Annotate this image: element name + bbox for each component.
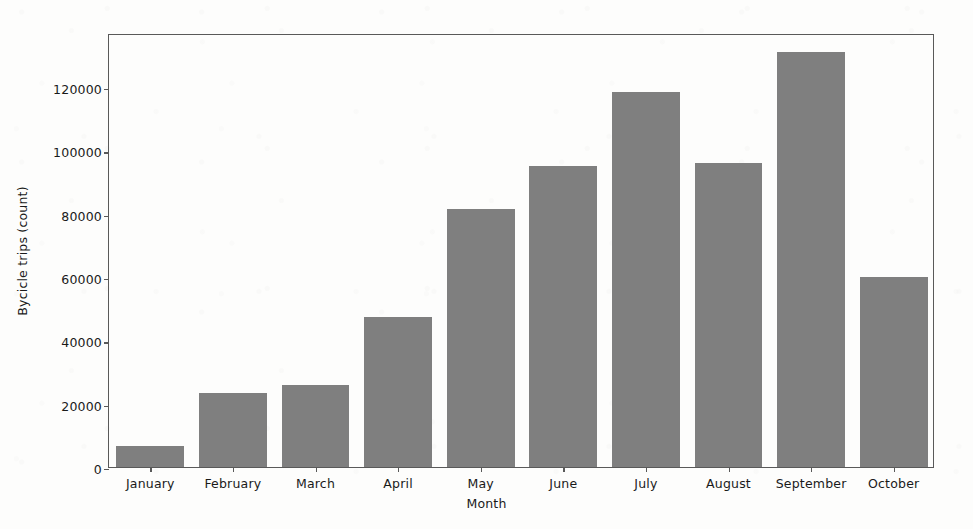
bar	[529, 166, 597, 467]
y-tick-label: 120000	[53, 81, 102, 96]
x-tick-label: February	[204, 476, 261, 491]
x-tick-label: August	[706, 476, 751, 491]
y-tick-label: 20000	[61, 398, 102, 413]
y-tick-mark	[104, 216, 109, 217]
x-tick-mark	[233, 467, 234, 472]
y-tick-mark	[104, 279, 109, 280]
x-tick-mark	[894, 467, 895, 472]
bar	[447, 209, 515, 467]
y-tick-mark	[104, 406, 109, 407]
bar	[695, 163, 763, 467]
x-tick-mark	[729, 467, 730, 472]
bar	[860, 277, 928, 467]
x-tick-label: January	[126, 476, 175, 491]
bar	[777, 52, 845, 467]
y-axis-title: Bycicle trips (count)	[15, 186, 30, 315]
bar	[612, 92, 680, 467]
y-tick-mark	[104, 89, 109, 90]
y-tick-mark	[104, 469, 109, 470]
y-tick-label: 0	[94, 462, 102, 477]
x-tick-mark	[481, 467, 482, 472]
bar-chart-figure: 020000400006000080000100000120000 Januar…	[0, 0, 973, 529]
x-tick-label: May	[467, 476, 493, 491]
plot-area: 020000400006000080000100000120000 Januar…	[108, 34, 934, 468]
y-tick-label: 40000	[61, 335, 102, 350]
x-tick-mark	[316, 467, 317, 472]
bar	[199, 393, 267, 467]
x-tick-mark	[150, 467, 151, 472]
y-tick-mark	[104, 342, 109, 343]
x-tick-mark	[563, 467, 564, 472]
x-tick-label: October	[868, 476, 919, 491]
x-tick-mark	[646, 467, 647, 472]
bar	[282, 385, 350, 467]
x-tick-label: September	[776, 476, 847, 491]
x-tick-label: July	[634, 476, 657, 491]
x-tick-label: March	[296, 476, 335, 491]
y-tick-label: 80000	[61, 208, 102, 223]
y-tick-label: 60000	[61, 271, 102, 286]
x-tick-mark	[811, 467, 812, 472]
bar	[116, 446, 184, 467]
bars-layer	[109, 35, 933, 467]
x-tick-mark	[398, 467, 399, 472]
x-tick-label: June	[549, 476, 577, 491]
y-tick-mark	[104, 152, 109, 153]
y-tick-label: 100000	[53, 145, 102, 160]
x-axis-title: Month	[0, 496, 973, 511]
x-tick-label: April	[383, 476, 413, 491]
bar	[364, 317, 432, 467]
